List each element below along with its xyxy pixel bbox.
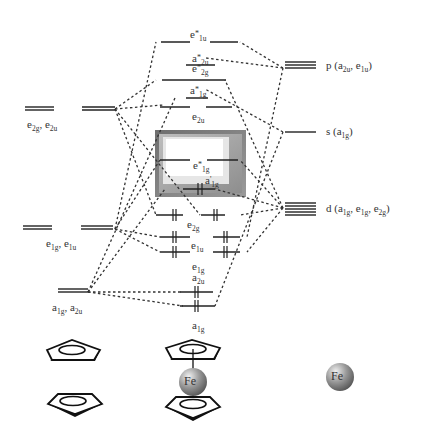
label-a1g-prime: a'1g xyxy=(205,174,219,190)
label-e2u: e2u xyxy=(192,111,204,126)
label-a1g-a2u: a1g, a2u xyxy=(52,302,82,317)
label-e1g-e1u: e1g, e1u xyxy=(46,238,76,253)
cp-ring-left-bottom xyxy=(48,394,102,417)
label-e1u-star: e*1u xyxy=(190,28,206,44)
label-p-orbitals: p (a2u, e1u) xyxy=(326,60,372,75)
label-e1g-star: e*1g xyxy=(193,159,209,175)
label-fe-complex: Fe xyxy=(184,376,196,387)
label-e1u: e1u xyxy=(191,240,203,255)
cp-ring-left-top xyxy=(47,340,100,361)
label-a1g: a1g xyxy=(192,320,204,335)
label-e2g-e2u: e2g, e2u xyxy=(27,119,57,134)
left-levels xyxy=(23,107,115,292)
label-d-orbitals: d (a1g, e1g, e2g) xyxy=(326,203,390,218)
label-s-orbital: s (a1g) xyxy=(326,126,353,141)
label-a1g-star: a*1g xyxy=(190,84,206,100)
label-fe-atom: Fe xyxy=(331,371,343,382)
right-levels xyxy=(285,62,316,215)
label-e2g-star: e*2g xyxy=(192,62,208,78)
label-e2g: e2g xyxy=(187,219,199,234)
label-a2u: a2u xyxy=(192,272,204,287)
